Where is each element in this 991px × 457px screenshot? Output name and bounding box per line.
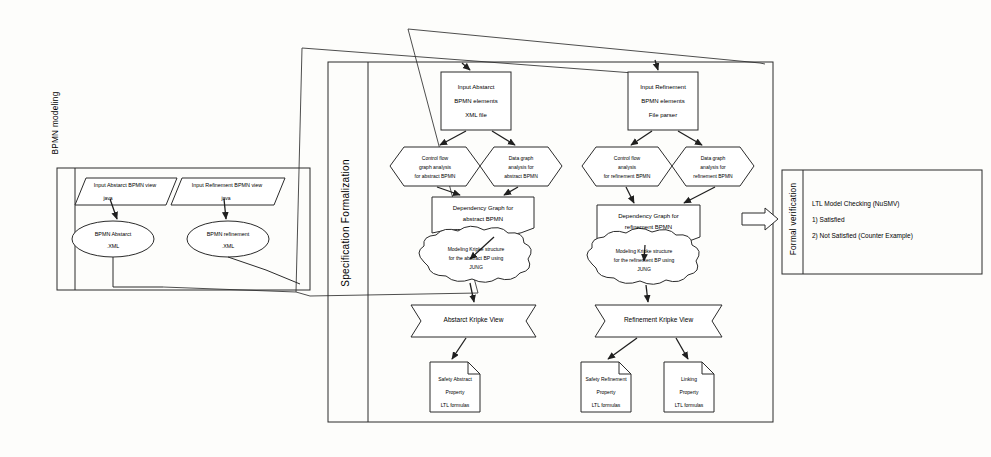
safety-refinement-line2: Property <box>578 389 634 395</box>
arrow-into-abstract-input <box>462 63 470 70</box>
kripke-refinement-line1: Modeling Kripke structure <box>588 248 700 254</box>
input-refinement-box-line1: Input Refinement <box>628 84 698 90</box>
dependency-graph-abstract-line2: abstract BPMN <box>432 216 534 222</box>
kripke-abstract-line1: Modeling Kripke structure <box>420 246 532 252</box>
input-abstract-view-label: Input Abstarct BPMN view <box>78 182 172 188</box>
arrow-abs-view-to-prop <box>452 338 466 359</box>
dependency-graph-refinement-line2: refinement BPMN <box>597 224 700 230</box>
arrow-abs-cfg-to-dep <box>437 187 460 195</box>
panel-label-bpmn-modeling: BPMN modeling <box>51 68 65 178</box>
linking-property-line3: LTL formulas <box>662 402 716 408</box>
verification-result-not-satisfied: 2) Not Satisfied (Counter Example) <box>812 232 987 239</box>
bpmn-abstract-xml-line1: BPMN Abstarct <box>73 231 153 237</box>
input-refinement-view-connector-label: java <box>206 195 246 201</box>
input-abstract-box-line3: XML file <box>441 112 511 118</box>
panel-label-formal-verification: Formal verification <box>789 170 803 268</box>
safety-refinement-line1: Safety Refinement <box>578 376 634 382</box>
arrow-ref-input-to-dg <box>678 131 702 145</box>
dga-abstract-line1: Data graph <box>482 155 560 161</box>
bpmn-refinement-xml-line1: BPMN refinement <box>188 231 268 237</box>
dependency-graph-refinement-line1: Dependency Graph for <box>597 213 700 219</box>
bpmn-refinement-xml[interactable] <box>187 221 269 257</box>
cfg-abstract-line2: graph analysis <box>390 164 480 170</box>
safety-refinement-line3: LTL formulas <box>578 402 634 408</box>
cfg-abstract-line1: Control flow <box>390 155 480 161</box>
arrow-ref-dg-to-dep <box>684 187 715 203</box>
panel-label-specification-formalization: Specification Formalization <box>340 58 356 388</box>
arrow-ref-view-to-linking <box>676 338 688 359</box>
route-refinement-xml-out <box>228 257 300 284</box>
arrow-abs-input-to-dg <box>492 131 515 145</box>
kripke-abstract-line2: for the abstract BP using <box>418 255 534 261</box>
overlay-connector <box>310 293 478 296</box>
input-abstract-box-line2: BPMN elements <box>441 98 511 104</box>
kripke-refinement-line3: JUNG <box>588 266 700 272</box>
refinement-kripke-view-label: Refinement Kripke View <box>595 316 722 323</box>
dga-refinement-line2: analysis for <box>674 164 752 170</box>
cfa-refinement-line2: analysis <box>582 164 672 170</box>
dga-refinement-line1: Data graph <box>674 155 752 161</box>
arrow-abs-input-to-cfg <box>440 131 466 145</box>
arrow-ref-view-to-safety <box>608 338 637 359</box>
arrow-ref-input-to-cfa <box>631 131 652 145</box>
bpmn-refinement-xml-line2: .XML <box>188 243 268 249</box>
input-refinement-box-line2: BPMN elements <box>628 98 698 104</box>
kripke-refinement-line2: for the refinement BP using <box>584 257 704 263</box>
figure-canvas: BPMN modeling Specification Formalizatio… <box>0 0 991 457</box>
dga-refinement-line3: refinement BPMN <box>670 173 756 179</box>
abstract-kripke-view-label: Abstarct Kripke View <box>411 316 536 323</box>
dependency-graph-abstract-line1: Dependency Graph for <box>432 205 534 211</box>
verification-result-satisfied: 1) Satisfied <box>812 216 977 223</box>
safety-abstract-line2: Property <box>428 389 482 395</box>
arrow-ref-kripke-to-view <box>646 285 648 302</box>
ltl-model-checking-title: LTL Model Checking (NuSMV) <box>812 200 977 207</box>
bpmn-abstract-xml[interactable] <box>72 221 154 257</box>
linking-property-line1: Linking <box>662 376 716 382</box>
linking-property-line2: Property <box>662 389 716 395</box>
dga-abstract-line3: abstract BPMN <box>480 173 562 179</box>
arrow-ref-cfa-to-dep <box>626 187 634 203</box>
bpmn-abstract-xml-line2: .XML <box>73 243 153 249</box>
safety-abstract-line1: Safety Abstract <box>428 376 482 382</box>
input-abstract-box-line1: Input Abstarct <box>441 84 511 90</box>
route-abstract-xml-out <box>113 257 163 287</box>
cfa-refinement-line3: for refinement BPMN <box>578 173 676 179</box>
arrow-abs-kripke-to-view <box>470 283 474 302</box>
dga-abstract-line2: analysis for <box>482 164 560 170</box>
cfa-refinement-line1: Control flow <box>582 155 672 161</box>
safety-abstract-line3: LTL formulas <box>428 402 482 408</box>
input-refinement-view-label: Input Refinement BPMN view <box>174 182 280 188</box>
flowchart-diagram <box>0 0 991 457</box>
cfg-abstract-line3: for abstract BPMN <box>388 173 482 179</box>
input-abstract-view-connector-label: java <box>88 195 128 201</box>
input-refinement-box-line3: File parser <box>628 112 698 118</box>
arrow-abs-dg-to-dep <box>504 187 518 195</box>
kripke-abstract-line3: JUNG <box>420 264 532 270</box>
